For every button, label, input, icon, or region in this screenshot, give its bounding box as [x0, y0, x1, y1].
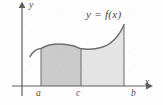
shaded-region-c-to-b [81, 25, 124, 86]
x-tick-label-c: c [76, 89, 80, 99]
area-under-curve-figure: y = f(x) y x a c b [0, 0, 163, 105]
y-axis-label: y [29, 1, 33, 11]
function-label: y = f(x) [86, 9, 121, 20]
x-tick-label-b: b [131, 89, 136, 99]
y-axis-arrow-icon [19, 2, 26, 9]
x-axis-label: x [145, 78, 149, 88]
figure-canvas [0, 0, 163, 105]
x-tick-label-a: a [36, 89, 41, 99]
shaded-region-a-to-c [41, 44, 81, 86]
